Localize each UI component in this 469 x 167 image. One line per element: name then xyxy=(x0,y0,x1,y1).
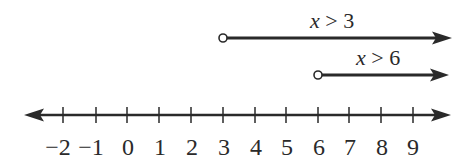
tick-label: −1 xyxy=(78,134,104,160)
tick-label: 3 xyxy=(218,134,230,160)
axis-tick-labels: −2 −1 0 1 2 3 4 5 6 7 8 9 xyxy=(45,134,419,160)
tick-label: 7 xyxy=(344,134,356,160)
open-circle-endpoint xyxy=(219,34,227,42)
ray-x-gt-3: x > 3 xyxy=(219,8,452,45)
tick-label: 2 xyxy=(186,134,198,160)
tick-label: 8 xyxy=(376,134,388,160)
tick-label: 4 xyxy=(250,134,262,160)
tick-label: 0 xyxy=(122,134,134,160)
ray-x-gt-6: x > 6 xyxy=(314,45,449,82)
tick-label: 6 xyxy=(313,134,325,160)
open-circle-endpoint xyxy=(314,71,322,79)
ray-label-x-gt-6: x > 6 xyxy=(355,45,400,70)
number-line-diagram: x > 3 x > 6 xyxy=(0,0,469,167)
tick-label: 5 xyxy=(281,134,293,160)
number-line-axis: −2 −1 0 1 2 3 4 5 6 7 8 9 xyxy=(24,107,451,160)
tick-label: 9 xyxy=(407,134,419,160)
ray-label-x-gt-3: x > 3 xyxy=(309,8,354,33)
tick-label: −2 xyxy=(45,134,71,160)
tick-label: 1 xyxy=(154,134,166,160)
